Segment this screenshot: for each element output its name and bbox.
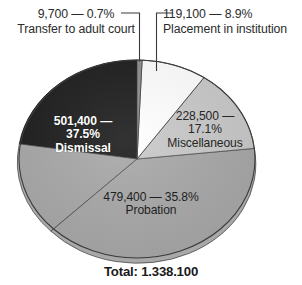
chart-total: Total: 1.338.100: [0, 264, 302, 279]
dismissal-value: 501,400 —: [31, 115, 135, 128]
callout-placement-value: 119,100 — 8.9%: [163, 7, 299, 22]
probation-name: Probation: [80, 204, 222, 217]
probation-value: 479,400 — 35.8%: [80, 191, 222, 204]
callout-transfer-to-adult-court: 9,700 — 0.7% Transfer to adult court: [2, 7, 150, 36]
slice-label-miscellaneous: 228,500 — 17.1% Miscellaneous: [156, 110, 254, 150]
dismissal-name: Dismissal: [31, 142, 135, 155]
slice-label-probation: 479,400 — 35.8% Probation: [80, 191, 222, 218]
callout-transfer-value: 9,700 — 0.7%: [2, 7, 150, 22]
callout-placement-name: Placement in institution: [163, 22, 299, 37]
callout-transfer-name: Transfer to adult court: [2, 22, 150, 37]
miscellaneous-name: Miscellaneous: [156, 137, 254, 150]
dismissal-percent: 37.5%: [31, 128, 135, 141]
slice-label-dismissal: 501,400 — 37.5% Dismissal: [31, 115, 135, 155]
pie-chart-figure: 9,700 — 0.7% Transfer to adult court 119…: [0, 0, 302, 285]
miscellaneous-value: 228,500 —: [156, 110, 254, 123]
callout-placement-in-institution: 119,100 — 8.9% Placement in institution: [163, 7, 299, 36]
miscellaneous-percent: 17.1%: [156, 123, 254, 136]
